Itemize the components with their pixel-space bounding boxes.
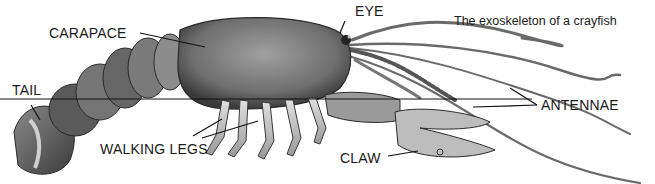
crayfish-diagram: CARAPACE EYE The exoskeleton of a crayfi… bbox=[0, 0, 655, 184]
claw-drawing bbox=[325, 92, 495, 157]
abdomen-drawing bbox=[49, 34, 186, 136]
label-claw: CLAW bbox=[340, 150, 381, 166]
label-eye: EYE bbox=[355, 3, 384, 19]
walking-legs-drawing bbox=[206, 98, 326, 159]
diagram-caption: The exoskeleton of a crayfish bbox=[454, 14, 617, 28]
label-tail: TAIL bbox=[12, 82, 41, 98]
label-carapace: CARAPACE bbox=[49, 25, 127, 41]
label-antennae: ANTENNAE bbox=[541, 97, 619, 113]
label-walking-legs: WALKING LEGS bbox=[100, 141, 208, 157]
